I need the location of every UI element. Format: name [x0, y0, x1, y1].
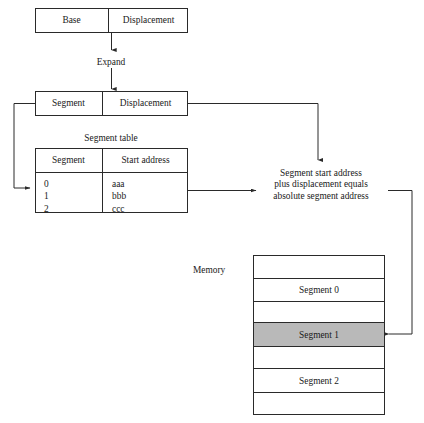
segment-table-header-separator: [35, 172, 188, 173]
segment-table-caption: Segment table: [0, 133, 222, 143]
formula-line-3: absolute segment address: [258, 191, 384, 202]
segment-table-cell-start-address: bbb: [112, 190, 126, 202]
field-segment-label: Segment: [35, 99, 102, 108]
formula-line-2: plus displacement equals: [258, 179, 384, 190]
formula-line-1: Segment start address: [258, 168, 384, 179]
segment-table-cell-start-address: aaa: [112, 178, 126, 190]
memory-row-label: Segment 0: [299, 285, 339, 295]
segment-table-col-header-segment: Segment: [35, 156, 102, 165]
memory-row-highlighted: Segment 1: [253, 322, 385, 346]
segment-table-row: 0 1 2: [44, 178, 49, 215]
field-base-label: Base: [35, 16, 108, 25]
segment-table-row: aaa bbb ccc: [112, 178, 126, 215]
memory-label: Memory: [193, 265, 225, 275]
connector-displacement-to-formula: [188, 104, 318, 161]
connector-formula-to-memory: [388, 191, 412, 335]
segment-table-cell-segment: 0: [44, 178, 49, 190]
memory-row: [253, 301, 385, 322]
segment-table-col-header-start-address: Start address: [103, 156, 188, 165]
memory-row-label: Segment 1: [299, 330, 339, 340]
memory-row: [253, 392, 385, 415]
segment-table-cell-start-address: ccc: [112, 203, 126, 215]
expand-label: Expand: [0, 57, 222, 67]
segment-table-cell-segment: 2: [44, 203, 49, 215]
connector-segment-to-table: [14, 104, 35, 189]
field-segment-displacement-label: Displacement: [103, 99, 188, 108]
memory-row: Segment 0: [253, 278, 385, 301]
memory-row: Segment 2: [253, 368, 385, 392]
memory-row: [253, 255, 385, 278]
segmentation-diagram: Base Displacement Expand Segment Displac…: [0, 0, 424, 423]
memory-row-label: Segment 2: [299, 376, 339, 386]
field-displacement-label: Displacement: [109, 16, 188, 25]
segment-table-cell-segment: 1: [44, 190, 49, 202]
address-computation-note: Segment start address plus displacement …: [258, 168, 384, 202]
memory-row: [253, 346, 385, 368]
